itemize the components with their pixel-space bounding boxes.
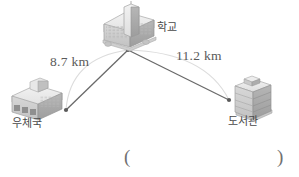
node-dot-library — [227, 98, 231, 102]
school-building-icon — [103, 1, 156, 51]
distance-diagram-figure: 학교 우체국 도서관 8.7 km 11.2 km ( ) — [0, 0, 299, 177]
node-label-post-office: 우체국 — [12, 114, 43, 130]
node-dot-post-office — [64, 108, 68, 112]
answer-open-paren: ( — [124, 146, 130, 168]
answer-close-paren: ) — [277, 146, 283, 168]
diagram-canvas — [0, 0, 299, 177]
node-label-library: 도서관 — [228, 112, 259, 128]
node-label-school: 학교 — [157, 18, 177, 34]
distance-label-school-library: 11.2 km — [176, 48, 222, 64]
distance-label-school-post-office: 8.7 km — [50, 54, 89, 70]
